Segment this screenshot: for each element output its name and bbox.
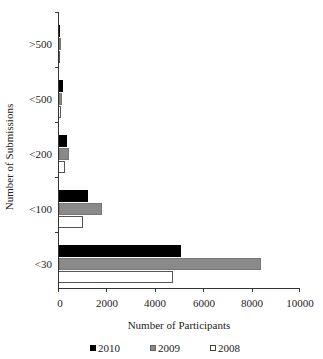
x-tick-label: 8000: [232, 297, 272, 309]
x-axis-line: [58, 288, 300, 289]
bar-2008: [59, 51, 60, 63]
legend-label: 2009: [158, 342, 180, 354]
category-label: <500: [14, 93, 52, 105]
x-tick-label: 10000: [280, 297, 320, 309]
bar-2009: [59, 203, 102, 215]
y-tick: [55, 12, 59, 13]
category-label: <30: [14, 258, 52, 270]
bar-2010: [59, 25, 60, 37]
category-label: <200: [14, 148, 52, 160]
bar-2009: [59, 38, 61, 50]
category-label: <100: [14, 203, 52, 215]
x-tick-label: 0: [40, 297, 80, 309]
x-tick: [58, 288, 59, 292]
x-tick-label: 4000: [135, 297, 175, 309]
x-tick: [252, 288, 253, 292]
legend-swatch-icon: [90, 345, 96, 351]
bar-2008: [59, 216, 83, 228]
x-tick: [203, 288, 204, 292]
x-tick: [155, 288, 156, 292]
x-axis-label: Number of Participants: [58, 319, 300, 331]
bar-2010: [59, 80, 63, 92]
x-tick: [106, 288, 107, 292]
y-tick: [55, 122, 59, 123]
legend-item-2009: 2009: [150, 342, 180, 354]
y-tick: [55, 232, 59, 233]
legend-item-2008: 2008: [210, 342, 240, 354]
x-tick: [299, 288, 300, 292]
bar-2010: [59, 190, 88, 202]
legend-item-2010: 2010: [90, 342, 120, 354]
y-tick: [55, 67, 59, 68]
bar-2010: [59, 135, 67, 147]
x-tick-label: 6000: [184, 297, 224, 309]
bar-2008: [59, 161, 65, 173]
bar-2008: [59, 271, 173, 283]
category-label: >500: [14, 38, 52, 50]
x-tick-label: 2000: [87, 297, 127, 309]
bar-2009: [59, 258, 261, 270]
bar-2008: [59, 106, 61, 118]
legend-label: 2010: [98, 342, 120, 354]
bar-2009: [59, 93, 62, 105]
bar-2010: [59, 245, 181, 257]
legend-swatch-icon: [150, 345, 156, 351]
bar-2009: [59, 148, 69, 160]
legend-swatch-icon: [210, 345, 216, 351]
legend-label: 2008: [218, 342, 240, 354]
y-tick: [55, 177, 59, 178]
